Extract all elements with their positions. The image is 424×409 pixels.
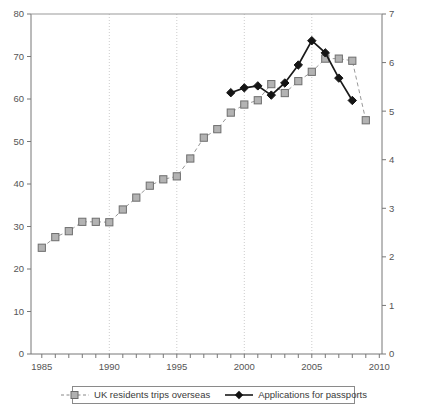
data-point-passports bbox=[227, 88, 235, 96]
data-point-trips bbox=[160, 176, 167, 183]
data-point-trips bbox=[335, 55, 342, 62]
data-point-trips bbox=[79, 218, 86, 225]
xtick-label: 2005 bbox=[301, 361, 322, 372]
legend-label-passports: Applications for passports bbox=[258, 390, 367, 400]
data-point-passports bbox=[335, 74, 343, 82]
data-point-trips bbox=[173, 173, 180, 180]
data-point-trips bbox=[106, 219, 113, 226]
data-point-trips bbox=[214, 126, 221, 133]
ytick-label-left: 20 bbox=[13, 263, 24, 274]
data-point-trips bbox=[241, 101, 248, 108]
ytick-label-left: 10 bbox=[13, 306, 24, 317]
ytick-label-right: 5 bbox=[389, 106, 394, 117]
data-point-trips bbox=[295, 78, 302, 85]
data-point-trips bbox=[187, 155, 194, 162]
data-point-trips bbox=[281, 89, 288, 96]
data-point-trips bbox=[200, 134, 207, 141]
ytick-label-left: 80 bbox=[13, 8, 24, 19]
ytick-label-right: 3 bbox=[389, 203, 394, 214]
xtick-label: 1985 bbox=[31, 361, 52, 372]
data-point-trips bbox=[119, 206, 126, 213]
series-line-passports bbox=[231, 41, 352, 101]
ytick-label-left: 40 bbox=[13, 178, 24, 189]
data-point-trips bbox=[227, 109, 234, 116]
data-point-trips bbox=[65, 228, 72, 235]
ytick-label-left: 70 bbox=[13, 51, 24, 62]
ytick-label-right: 6 bbox=[389, 57, 394, 68]
series-line-trips bbox=[42, 59, 366, 248]
data-point-trips bbox=[146, 182, 153, 189]
data-point-trips bbox=[254, 97, 261, 104]
xtick-label: 1995 bbox=[166, 361, 187, 372]
data-point-trips bbox=[349, 57, 356, 64]
data-point-trips bbox=[38, 244, 45, 251]
xtick-label: 1990 bbox=[99, 361, 120, 372]
ytick-label-left: 0 bbox=[19, 348, 24, 359]
ytick-label-right: 0 bbox=[389, 348, 394, 359]
ytick-label-right: 2 bbox=[389, 251, 394, 262]
data-point-trips bbox=[362, 117, 369, 124]
square-dashed-gray-icon bbox=[60, 389, 90, 401]
dual-axis-line-chart: 0102030405060708001234567198519901995200… bbox=[0, 0, 424, 409]
data-point-trips bbox=[308, 68, 315, 75]
data-point-trips bbox=[92, 218, 99, 225]
xtick-label: 2010 bbox=[369, 361, 390, 372]
ytick-label-right: 4 bbox=[389, 154, 394, 165]
ytick-label-left: 50 bbox=[13, 136, 24, 147]
ytick-label-right: 7 bbox=[389, 8, 394, 19]
plot-area: 0102030405060708001234567198519901995200… bbox=[0, 0, 424, 409]
legend-entry-trips: UK residents trips overseas bbox=[60, 389, 210, 401]
chart-legend: UK residents trips overseas Applications… bbox=[72, 386, 355, 404]
legend-entry-passports: Applications for passports bbox=[224, 389, 367, 401]
diamond-solid-black-icon bbox=[224, 389, 254, 401]
data-point-passports bbox=[348, 96, 356, 104]
legend-label-trips: UK residents trips overseas bbox=[94, 390, 210, 400]
data-point-trips bbox=[133, 194, 140, 201]
data-point-trips bbox=[268, 81, 275, 88]
ytick-label-left: 60 bbox=[13, 93, 24, 104]
data-point-passports bbox=[240, 84, 248, 92]
xtick-label: 2000 bbox=[234, 361, 255, 372]
ytick-label-left: 30 bbox=[13, 221, 24, 232]
ytick-label-right: 1 bbox=[389, 300, 394, 311]
data-point-trips bbox=[52, 234, 59, 241]
